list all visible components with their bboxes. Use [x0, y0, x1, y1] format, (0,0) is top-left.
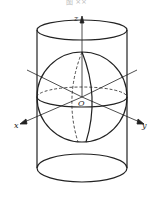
z-arrow-icon	[80, 16, 84, 23]
sphere-in-cylinder-diagram	[0, 0, 153, 200]
neg-x-axis	[27, 70, 82, 97]
y-axis-label: y	[142, 121, 147, 130]
origin-label: O	[78, 99, 85, 108]
x-arrow-icon	[20, 119, 27, 124]
cylinder-bottom-ellipse	[37, 154, 127, 182]
meridian-front	[82, 52, 92, 142]
meridian-back	[72, 52, 82, 142]
z-axis-label: z	[74, 14, 78, 23]
x-axis-label: x	[14, 121, 19, 130]
x-axis	[22, 97, 82, 123]
